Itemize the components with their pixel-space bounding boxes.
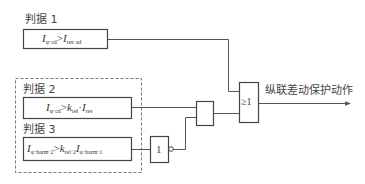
wire-criterion-1-to-or	[108, 40, 240, 92]
formula-subscript: res·ad	[67, 39, 82, 45]
not-gate-label: 1	[156, 144, 162, 155]
and-gate-box	[197, 102, 214, 126]
formula-subscript: res	[86, 108, 93, 114]
criterion-3-formula: Iφ·harm·2>krel·2Iφ·harm·1	[27, 143, 102, 155]
criterion-2-label: 判据 2	[23, 84, 56, 95]
formula-subscript: φ·cd	[50, 108, 61, 114]
criterion-1-label: 判据 1	[25, 14, 58, 25]
formula-subscript: rel·2	[65, 149, 76, 155]
criterion-3-label: 判据 3	[23, 124, 56, 135]
formula-subscript: φ·cd	[46, 39, 57, 45]
output-arrow-icon	[345, 101, 351, 106]
criterion-1-formula: Iφ·cd>Ires·ad	[42, 33, 81, 45]
formula-subscript: φ·harm·2	[31, 149, 54, 155]
formula-subscript: φ·harm·1	[80, 149, 103, 155]
wire-not-to-and	[173, 118, 196, 150]
not-gate-inversion-bubble	[169, 147, 174, 152]
output-label: 纵联差动保护动作	[265, 85, 353, 96]
criterion-2-formula: Iφ·cd>krel·Ires	[46, 102, 93, 114]
or-gate-label: ≥1	[241, 97, 252, 107]
